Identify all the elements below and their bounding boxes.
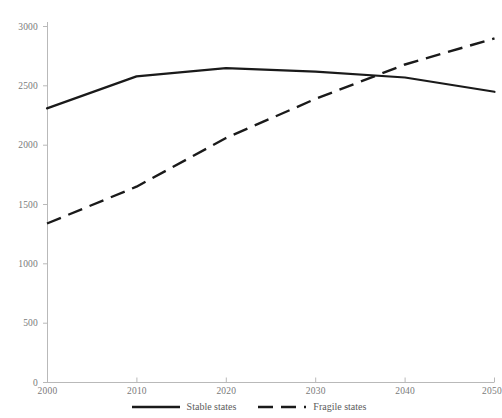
y-axis-ticks xyxy=(43,27,47,383)
series-line-fragile-states xyxy=(47,38,495,223)
y-tick-label-1000: 1000 xyxy=(0,259,38,269)
x-tick-label-2030: 2030 xyxy=(306,386,326,396)
legend-label-fragile-states: Fragile states xyxy=(313,401,366,412)
x-tick-label-2040: 2040 xyxy=(395,386,415,396)
legend-item-fragile-states: Fragile states xyxy=(258,401,366,412)
y-tick-label-0: 0 xyxy=(0,378,38,388)
y-tick-label-500: 500 xyxy=(0,318,38,328)
legend-swatch-solid-icon xyxy=(132,402,180,412)
x-tick-label-2050: 2050 xyxy=(482,386,502,396)
series-line-stable-states xyxy=(47,68,495,108)
legend-label-stable-states: Stable states xyxy=(187,401,237,412)
x-tick-label-2000: 2000 xyxy=(38,386,58,396)
legend-item-stable-states: Stable states xyxy=(132,401,237,412)
y-tick-label-2500: 2500 xyxy=(0,81,38,91)
x-tick-label-2010: 2010 xyxy=(127,386,147,396)
y-tick-label-1500: 1500 xyxy=(0,200,38,210)
legend-swatch-dashed-icon xyxy=(258,402,306,412)
x-axis-ticks xyxy=(48,378,495,383)
y-tick-label-3000: 3000 xyxy=(0,22,38,32)
y-tick-label-2000: 2000 xyxy=(0,140,38,150)
chart-legend: Stable states Fragile states xyxy=(0,401,498,412)
x-tick-label-2020: 2020 xyxy=(216,386,236,396)
